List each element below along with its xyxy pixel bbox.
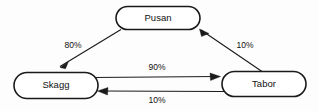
edge-tabor-skagg-arrowhead — [98, 88, 109, 96]
edge-tabor-pusan-label: 10% — [236, 40, 253, 50]
edge-pusan-skagg-label: 80% — [64, 40, 81, 50]
node-skagg-label: Skagg — [43, 79, 70, 90]
edge-skagg-tabor-line — [92, 77, 218, 78]
edge-tabor-pusan[interactable]: 10% — [200, 29, 263, 72]
diagram-svg: 80% 10% 90% 10% Pusan Skagg — [0, 0, 319, 111]
edge-skagg-tabor[interactable]: 90% — [92, 62, 221, 80]
edge-skagg-tabor-arrowhead — [210, 73, 221, 81]
edge-tabor-skagg-label: 10% — [148, 95, 165, 105]
node-tabor-label: Tabor — [252, 78, 276, 89]
edge-skagg-tabor-label: 90% — [148, 62, 165, 72]
diagram-canvas: 80% 10% 90% 10% Pusan Skagg — [0, 0, 319, 111]
edge-tabor-pusan-arrowhead — [200, 29, 210, 37]
edge-tabor-skagg[interactable]: 10% — [98, 88, 225, 106]
edge-tabor-pusan-line — [201, 30, 262, 72]
node-tabor[interactable]: Tabor — [222, 72, 306, 97]
edge-tabor-skagg-line — [100, 91, 224, 92]
edge-pusan-skagg[interactable]: 80% — [60, 30, 121, 69]
node-skagg[interactable]: Skagg — [14, 73, 98, 99]
node-pusan-label: Pusan — [145, 12, 172, 23]
node-pusan[interactable]: Pusan — [116, 7, 200, 30]
